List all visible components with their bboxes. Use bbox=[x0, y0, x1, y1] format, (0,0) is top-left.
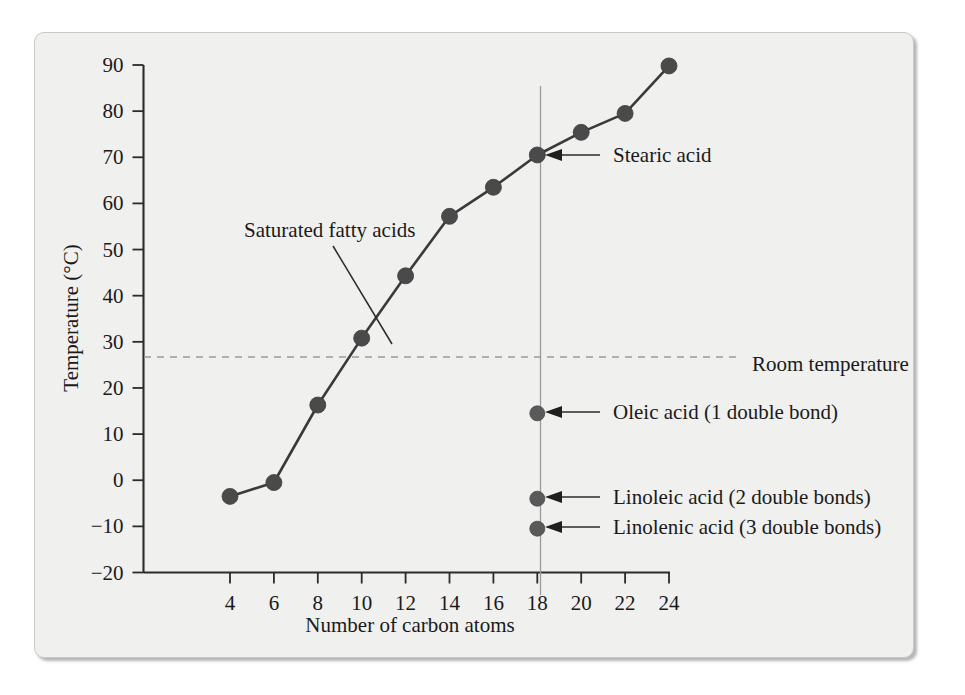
saturated-series-markers bbox=[222, 58, 677, 504]
linolenic-arrow-head bbox=[545, 521, 562, 533]
y-tick-label: −10 bbox=[91, 514, 124, 538]
x-tick-label: 6 bbox=[269, 591, 280, 615]
annotation-linoleic-acid: Linoleic acid (2 double bonds) bbox=[613, 485, 871, 509]
saturated-leader-line bbox=[333, 246, 392, 344]
y-axis-title: Temperature (°C) bbox=[59, 244, 83, 391]
annotation-room-temperature: Room temperature bbox=[752, 352, 909, 376]
x-axis-title: Number of carbon atoms bbox=[305, 613, 514, 637]
data-point-marker bbox=[266, 475, 282, 491]
y-tick-label: 20 bbox=[103, 376, 124, 400]
y-tick-label: 60 bbox=[103, 191, 124, 215]
x-tick-label: 22 bbox=[615, 591, 636, 615]
annotation-labels: Saturated fatty acids Stearic acid Oleic… bbox=[244, 143, 909, 539]
linoleic-arrow-head bbox=[545, 491, 562, 503]
chart-plot: −20−100102030405060708090 46810121416182… bbox=[0, 0, 965, 695]
data-point-marker bbox=[617, 105, 633, 121]
x-tick-label: 16 bbox=[483, 591, 504, 615]
data-point-marker bbox=[661, 58, 677, 74]
y-tick-label: 50 bbox=[103, 238, 124, 262]
x-tick-label: 8 bbox=[313, 591, 324, 615]
x-tick-label: 18 bbox=[527, 591, 548, 615]
data-point-marker bbox=[354, 330, 370, 346]
data-point-marker bbox=[442, 208, 458, 224]
data-point-marker bbox=[529, 147, 545, 163]
x-tick-label: 24 bbox=[659, 591, 681, 615]
annotation-saturated-fatty-acids: Saturated fatty acids bbox=[244, 218, 415, 242]
x-tick-label: 12 bbox=[395, 591, 416, 615]
x-tick-label: 4 bbox=[225, 591, 236, 615]
annotation-oleic-acid: Oleic acid (1 double bond) bbox=[613, 400, 838, 424]
x-ticks bbox=[230, 573, 669, 584]
y-tick-label: 10 bbox=[103, 422, 124, 446]
annotation-linolenic-acid: Linolenic acid (3 double bonds) bbox=[613, 515, 881, 539]
x-tick-label: 20 bbox=[571, 591, 592, 615]
data-point-marker bbox=[530, 491, 545, 506]
y-tick-label: −20 bbox=[91, 561, 124, 585]
y-tick-label: 80 bbox=[103, 99, 124, 123]
data-point-marker bbox=[530, 521, 545, 536]
x-tick-label: 10 bbox=[351, 591, 372, 615]
y-tick-label: 40 bbox=[103, 284, 124, 308]
y-ticks bbox=[133, 65, 144, 573]
data-point-marker bbox=[485, 179, 501, 195]
saturated-series bbox=[222, 58, 677, 504]
oleic-arrow-head bbox=[545, 406, 562, 418]
y-tick-label: 0 bbox=[113, 468, 124, 492]
saturated-series-line bbox=[230, 66, 669, 497]
annotation-stearic-acid: Stearic acid bbox=[613, 143, 712, 167]
x-tick-label: 14 bbox=[439, 591, 461, 615]
data-point-marker bbox=[398, 268, 414, 284]
y-tick-labels: −20−100102030405060708090 bbox=[91, 53, 124, 585]
data-point-marker bbox=[310, 397, 326, 413]
data-point-marker bbox=[573, 124, 589, 140]
data-point-marker bbox=[222, 488, 238, 504]
figure-root: −20−100102030405060708090 46810121416182… bbox=[0, 0, 965, 695]
y-tick-label: 90 bbox=[103, 53, 124, 77]
data-point-marker bbox=[530, 406, 545, 421]
y-tick-label: 30 bbox=[103, 330, 124, 354]
unsaturated-points bbox=[530, 406, 545, 536]
x-tick-labels: 4681012141618202224 bbox=[225, 591, 680, 615]
y-tick-label: 70 bbox=[103, 145, 124, 169]
